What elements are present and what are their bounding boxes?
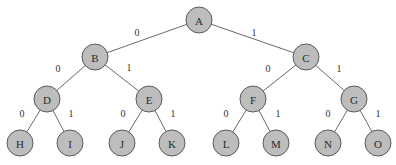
- node-label: A: [195, 15, 203, 27]
- binary-tree-diagram: 01010101010101 ABCDEFGHIJKLMNO: [0, 0, 396, 165]
- tree-node-l: L: [213, 130, 239, 156]
- node-label: D: [43, 94, 51, 106]
- tree-node-a: A: [186, 7, 212, 33]
- edge-label-d-i: 1: [69, 108, 74, 119]
- node-label: E: [146, 94, 153, 106]
- tree-node-g: G: [341, 86, 367, 112]
- node-label: L: [223, 138, 230, 150]
- edges-layer: [20, 20, 378, 143]
- node-label: N: [324, 138, 332, 150]
- edge-label-b-d: 0: [56, 63, 61, 74]
- edge-labels-layer: 01010101010101: [20, 27, 381, 119]
- tree-node-f: F: [240, 86, 266, 112]
- node-label: F: [250, 94, 256, 106]
- edge-label-e-k: 1: [171, 108, 176, 119]
- node-label: K: [168, 138, 176, 150]
- edge-a-b: [95, 20, 199, 57]
- tree-node-b: B: [82, 44, 108, 70]
- node-label: I: [68, 138, 72, 150]
- node-label: O: [374, 138, 382, 150]
- tree-node-o: O: [365, 130, 391, 156]
- node-label: B: [91, 52, 98, 64]
- tree-node-h: H: [7, 130, 33, 156]
- tree-node-k: K: [159, 130, 185, 156]
- tree-node-c: C: [293, 44, 319, 70]
- edge-label-d-h: 0: [20, 108, 25, 119]
- tree-canvas: 01010101010101 ABCDEFGHIJKLMNO: [0, 0, 396, 165]
- tree-node-m: M: [263, 130, 289, 156]
- edge-label-a-c: 1: [252, 27, 257, 38]
- edge-label-g-n: 0: [326, 108, 331, 119]
- tree-node-n: N: [315, 130, 341, 156]
- edge-label-c-g: 1: [337, 63, 342, 74]
- edge-label-f-l: 0: [224, 108, 229, 119]
- node-label: J: [120, 138, 125, 150]
- node-label: C: [302, 52, 309, 64]
- tree-node-i: I: [57, 130, 83, 156]
- edge-label-a-b: 0: [135, 27, 140, 38]
- tree-node-e: E: [136, 86, 162, 112]
- edge-label-f-m: 1: [276, 108, 281, 119]
- tree-node-j: J: [109, 130, 135, 156]
- node-label: H: [16, 138, 24, 150]
- edge-label-c-f: 0: [266, 63, 271, 74]
- edge-label-e-j: 0: [121, 108, 126, 119]
- edge-label-b-e: 1: [127, 62, 132, 73]
- node-label: G: [350, 94, 358, 106]
- node-label: M: [271, 138, 281, 150]
- tree-node-d: D: [34, 86, 60, 112]
- edge-label-g-o: 1: [376, 108, 381, 119]
